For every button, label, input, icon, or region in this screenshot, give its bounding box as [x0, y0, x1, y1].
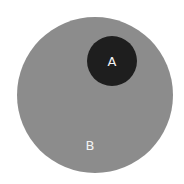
set-b-label: B: [86, 138, 95, 153]
set-b-circle: [17, 17, 173, 173]
euler-diagram: A B: [0, 0, 184, 184]
set-a-label: A: [108, 54, 117, 69]
